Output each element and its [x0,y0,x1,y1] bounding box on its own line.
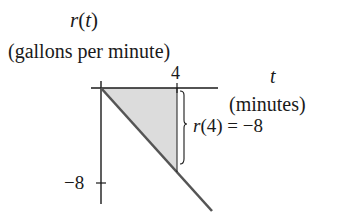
y-axis-units: (gallons per minute) [8,41,170,61]
y-axis-title-func: r [70,8,78,32]
brace-icon [180,91,187,164]
y-axis-title: r(t) [70,10,98,31]
y-tick-label: −8 [64,173,84,192]
annotation-label: r(4) = −8 [193,116,263,135]
x-tick-label: 4 [171,64,180,82]
x-axis-units: (minutes) [229,94,306,114]
annotation-value: (4) = −8 [200,115,263,136]
x-axis-title: t [270,66,276,86]
y-axis-title-var: t [85,8,91,32]
